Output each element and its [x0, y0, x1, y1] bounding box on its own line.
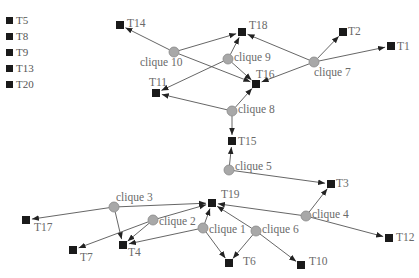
node-label-c3: clique 3	[116, 191, 153, 204]
legend-item: T5	[6, 12, 34, 28]
node-label-T11: T11	[149, 76, 167, 88]
task-node-T2	[339, 28, 347, 36]
clique-node-c5	[224, 165, 234, 175]
legend-label: T5	[16, 12, 28, 28]
task-node-T6	[225, 259, 233, 267]
task-square-icon	[6, 33, 13, 40]
legend-label: T9	[16, 44, 28, 60]
edge-c9-T16	[232, 62, 252, 80]
clique-node-c4	[301, 211, 311, 221]
node-label-T12: T12	[396, 231, 415, 243]
clique-node-c1	[198, 223, 208, 233]
edge-c3-T17	[32, 208, 109, 219]
node-label-T1: T1	[397, 40, 410, 52]
legend-label: T13	[16, 60, 34, 76]
task-square-icon	[6, 17, 13, 24]
task-square-icon	[6, 49, 13, 56]
clique-node-layer	[109, 47, 319, 236]
task-node-T10	[297, 261, 305, 269]
node-label-T2: T2	[348, 25, 361, 37]
task-node-T17	[22, 216, 30, 224]
edge-c3-T4	[115, 212, 121, 239]
task-node-T12	[385, 234, 393, 242]
task-node-T15	[228, 137, 236, 145]
edge-c7-T2	[318, 36, 339, 58]
edge-c5-T3	[234, 171, 325, 184]
clique-node-c2	[148, 215, 158, 225]
node-label-T17: T17	[34, 221, 53, 233]
edge-c1-T19	[205, 209, 210, 224]
node-label-T6: T6	[243, 255, 256, 267]
task-node-T7	[69, 246, 77, 254]
legend: T5 T8 T9 T13 T20	[6, 12, 34, 92]
task-node-T11	[152, 89, 160, 97]
task-square-icon	[6, 81, 13, 88]
node-label-T14: T14	[127, 17, 146, 29]
edge-c10-T18	[179, 34, 236, 51]
node-label-c10: clique 10	[140, 56, 183, 69]
node-label-c2: clique 2	[159, 215, 196, 228]
clique-node-c8	[227, 106, 237, 116]
clique-graph: T1T2T3T4T6T7T10T11T12T14T15T16T17T18T19c…	[0, 0, 419, 278]
edge-c4-T12	[311, 217, 383, 236]
node-label-c8: clique 8	[238, 103, 275, 116]
node-label-c6: clique 6	[262, 223, 299, 236]
edge-c1-T6	[206, 232, 225, 258]
edge-c10-T14	[125, 28, 169, 50]
edge-c2-T7	[79, 222, 149, 248]
edge-c3-T19	[119, 203, 206, 207]
task-square-icon	[6, 65, 13, 72]
clique-node-c9	[223, 54, 233, 64]
task-node-T4	[119, 241, 127, 249]
node-label-T10: T10	[309, 255, 328, 267]
task-node-T18	[238, 28, 246, 36]
node-label-c7: clique 7	[314, 66, 351, 79]
node-label-c9: clique 9	[234, 51, 271, 64]
clique-node-c3	[109, 202, 119, 212]
node-label-c4: clique 4	[312, 208, 349, 221]
task-node-T1	[387, 42, 395, 50]
edge-c5-T15	[230, 147, 232, 165]
node-label-T7: T7	[80, 251, 93, 263]
edge-c7-T1	[319, 47, 385, 61]
clique-node-c6	[251, 226, 261, 236]
node-label-T16: T16	[256, 68, 275, 80]
edge-c6-T10	[260, 234, 296, 261]
legend-item: T13	[6, 60, 34, 76]
node-label-T19: T19	[221, 188, 240, 200]
legend-label: T20	[16, 76, 34, 92]
task-node-T3	[327, 180, 335, 188]
task-node-T16	[252, 80, 260, 88]
legend-item: T20	[6, 76, 34, 92]
node-label-T4: T4	[128, 246, 141, 258]
legend-item: T8	[6, 28, 34, 44]
edge-c8-T11	[162, 94, 227, 109]
node-label-c5: clique 5	[235, 160, 272, 173]
task-node-T19	[208, 199, 216, 207]
legend-item: T9	[6, 44, 34, 60]
node-label-c1: clique 1	[209, 223, 246, 236]
task-node-T14	[116, 21, 124, 29]
legend-label: T8	[16, 28, 28, 44]
edge-c4-T19	[218, 204, 301, 216]
node-label-T3: T3	[336, 177, 349, 189]
node-label-T15: T15	[238, 135, 257, 147]
node-label-T18: T18	[249, 19, 268, 31]
